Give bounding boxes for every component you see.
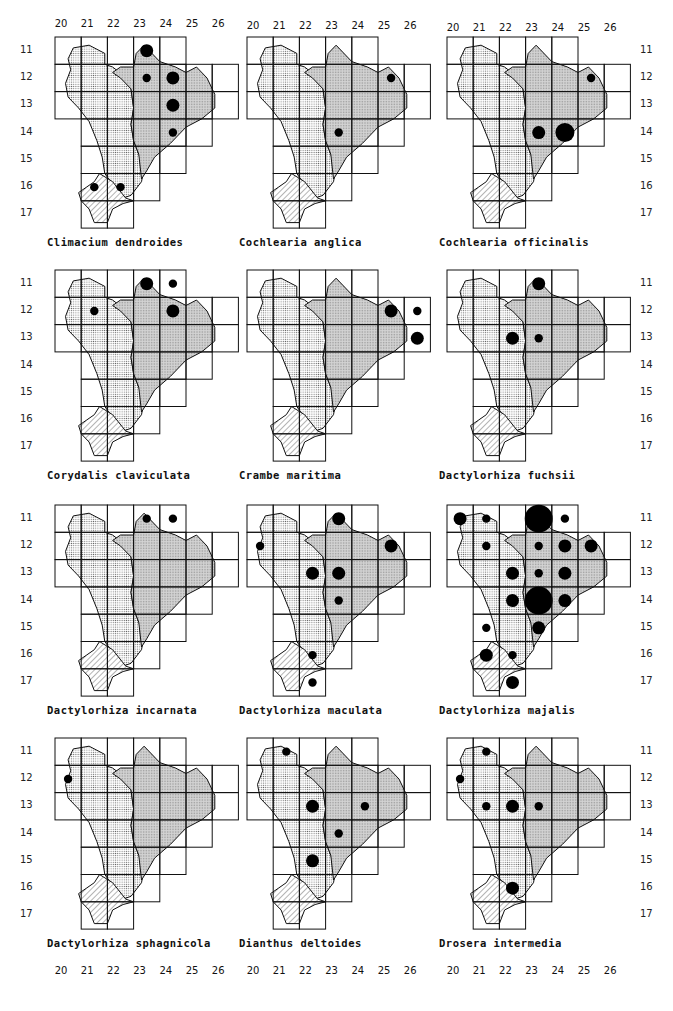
column-tick-label: 22 [100,18,126,29]
occurrence-dot [169,128,177,136]
grid-cell [107,738,133,765]
grid-cell [499,738,525,765]
distribution-map-panel: Dactylorhiza maculata [247,505,447,737]
grid-cell [352,738,378,765]
row-tick-label: 12 [20,539,33,550]
column-tick-label: 23 [127,965,153,976]
row-tick-label: 13 [20,98,33,109]
occurrence-dot [143,514,151,522]
grid-cell [404,560,430,587]
column-tick-label: 24 [345,965,371,976]
column-tick-label: 21 [74,965,100,976]
grid-cell [552,37,578,64]
occurrence-dot [456,775,464,783]
grid-cell [352,847,378,874]
row-tick-label: 11 [20,277,33,288]
grid-cell [160,614,186,641]
distribution-map-panel: Dactylorhiza sphagnicola [55,738,255,970]
distribution-map-panel: Corydalis claviculata [55,270,255,502]
row-tick-label: 16 [640,413,653,424]
grid-cell [352,146,378,173]
occurrence-dot [506,676,519,689]
row-tick-label: 16 [640,180,653,191]
species-title: Dactylorhiza majalis [439,704,575,716]
row-tick-label: 12 [640,772,653,783]
row-tick-label: 12 [640,71,653,82]
occurrence-dot [525,505,553,533]
occurrence-dot [532,621,545,634]
grid-cell [552,146,578,173]
occurrence-dot [332,567,345,580]
grid-map [55,270,240,463]
column-tick-label: 24 [345,20,371,31]
occurrence-dot [506,567,519,580]
occurrence-dot [535,542,543,550]
grid-cell [604,64,630,91]
row-tick-label: 16 [640,648,653,659]
row-tick-label: 16 [640,881,653,892]
grid-map [447,270,632,463]
grid-map [447,738,632,931]
occurrence-dot [335,128,343,136]
grid-cell [604,297,630,324]
column-tick-label: 23 [319,965,345,976]
grid-map [55,505,240,698]
column-tick-label: 21 [466,965,492,976]
occurrence-dot [535,569,543,577]
grid-cell [212,765,238,792]
occurrence-dot [558,594,571,607]
row-tick-label: 15 [640,854,653,865]
occurrence-dot [306,567,319,580]
row-tick-label: 13 [640,331,653,342]
column-tick-label: 23 [127,18,153,29]
species-title: Dactylorhiza fuchsii [439,469,575,481]
occurrence-dot [506,800,519,813]
row-tick-label: 16 [20,413,33,424]
grid-cell [212,532,238,559]
column-tick-label: 25 [371,965,397,976]
grid-cell [604,92,630,119]
grid-cell [604,532,630,559]
column-tick-label: 23 [319,20,345,31]
column-tick-label: 22 [100,965,126,976]
species-title: Dactylorhiza maculata [239,704,382,716]
occurrence-dot [558,539,571,552]
row-tick-label: 17 [640,675,653,686]
grid-map [247,270,432,463]
column-tick-label: 22 [492,965,518,976]
occurrence-dot [306,800,319,813]
grid-map [55,738,240,931]
occurrence-dot [413,307,421,315]
row-tick-label: 14 [640,594,653,605]
distribution-map-panel: Cochlearia officinalis [447,37,647,269]
column-tick-label: 26 [397,20,423,31]
column-tick-label: 25 [371,20,397,31]
column-tick-label: 22 [292,20,318,31]
row-tick-label: 11 [640,745,653,756]
occurrence-dot [585,539,598,552]
occurrence-dot [332,512,345,525]
grid-map [55,37,240,230]
grid-cell [107,270,133,297]
row-tick-label: 15 [640,621,653,632]
row-tick-label: 15 [20,153,33,164]
species-title: Dactylorhiza incarnata [47,704,197,716]
grid-cell [160,37,186,64]
grid-cell [107,505,133,532]
grid-cell [404,92,430,119]
row-tick-label: 15 [20,621,33,632]
column-tick-label: 20 [240,20,266,31]
species-title: Cochlearia anglica [239,236,362,248]
grid-cell [552,614,578,641]
grid-map [247,37,432,230]
row-tick-label: 15 [20,854,33,865]
row-tick-label: 13 [640,98,653,109]
grid-cell [212,793,238,820]
grid-map [447,37,632,230]
distribution-map-panel: Cochlearia anglica [247,37,447,269]
grid-cell [404,532,430,559]
species-title: Drosera intermedia [439,937,562,949]
distribution-map-panel: Dactylorhiza fuchsii [447,270,647,502]
grid-cell [499,37,525,64]
grid-cell [212,92,238,119]
